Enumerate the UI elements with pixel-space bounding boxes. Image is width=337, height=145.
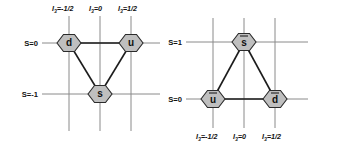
- axis-label-i3-neg-half: I3=-1/2: [196, 132, 217, 142]
- panel-antiquark-triplet: s u d S=1 S=0 I3=-1/2 I3=0 I3=1/2: [168, 0, 337, 145]
- node-u[interactable]: u: [119, 35, 143, 52]
- node-d-label: d: [66, 37, 72, 48]
- node-sbar[interactable]: s: [232, 34, 256, 51]
- axis-label-s-zero: S=0: [24, 39, 38, 48]
- node-sbar-label: s: [241, 37, 247, 48]
- figure-canvas: d u s I3=-1/2 I3=0 I3=1/2 S=0 S=-1: [0, 0, 337, 145]
- node-ubar-label: u: [210, 94, 216, 105]
- grid-vertical-lines: [69, 16, 131, 131]
- axis-label-i3-zero: I3=0: [89, 4, 102, 14]
- axis-label-i3-neg-half: I3=-1/2: [52, 4, 73, 14]
- node-d[interactable]: d: [57, 35, 81, 52]
- axis-label-s-one: S=1: [168, 38, 182, 47]
- axis-label-i3-pos-half: I3=1/2: [262, 132, 281, 142]
- node-s-label: s: [97, 88, 103, 99]
- axis-label-i3-pos-half: I3=1/2: [118, 4, 137, 14]
- node-ubar[interactable]: u: [201, 91, 225, 108]
- node-dbar[interactable]: d: [263, 91, 287, 108]
- node-dbar-label: d: [272, 94, 278, 105]
- axis-label-s-zero: S=0: [168, 95, 182, 104]
- axis-label-i3-zero: I3=0: [233, 132, 246, 142]
- panel-quark-triplet: d u s I3=-1/2 I3=0 I3=1/2 S=0 S=-1: [0, 0, 168, 145]
- node-s[interactable]: s: [88, 86, 112, 103]
- node-u-label: u: [128, 37, 134, 48]
- axis-label-s-minus-one: S=-1: [22, 90, 39, 99]
